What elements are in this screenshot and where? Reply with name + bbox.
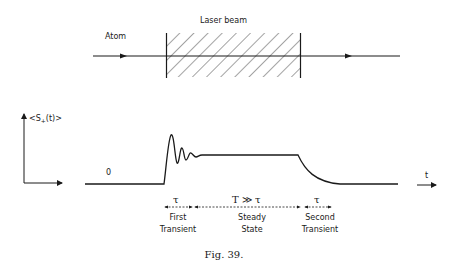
s-plus-curve bbox=[85, 135, 398, 184]
trajectory-arrow-icon bbox=[345, 54, 352, 59]
interval-label-line2: State bbox=[241, 225, 262, 234]
interval-duration: τ bbox=[173, 194, 179, 205]
laser-beam-region bbox=[166, 33, 301, 77]
interval-label-line1: Second bbox=[305, 213, 334, 222]
interval-label-line2: Transient bbox=[159, 225, 197, 234]
interval-duration: τ bbox=[314, 194, 320, 205]
laser-beam-label: Laser beam bbox=[200, 16, 247, 25]
interval-duration: T ≫ τ bbox=[232, 194, 261, 205]
interval-first-transient: τ First Transient bbox=[159, 194, 197, 234]
interval-second-transient: τ Second Transient bbox=[301, 194, 339, 234]
laser-beam-diagram: Laser beam Atom bbox=[93, 16, 400, 78]
figure-canvas: Laser beam Atom <S+(t)> 0 t τ First Tran… bbox=[0, 0, 449, 269]
figure-caption: Fig. 39. bbox=[205, 249, 244, 260]
interval-label-line2: Transient bbox=[301, 225, 339, 234]
interval-label-line1: Steady bbox=[238, 213, 266, 222]
plot-axes: <S+(t)> bbox=[24, 114, 62, 183]
interval-steady-state: T ≫ τ Steady State bbox=[195, 194, 300, 234]
atom-label: Atom bbox=[105, 32, 126, 41]
time-axis-label: t bbox=[425, 171, 428, 180]
zero-label: 0 bbox=[106, 168, 111, 177]
interval-label-line1: First bbox=[170, 213, 187, 222]
signal-curve: 0 t bbox=[85, 135, 436, 185]
y-axis-label: <S+(t)> bbox=[29, 114, 62, 124]
trajectory-arrow-icon bbox=[120, 54, 127, 59]
